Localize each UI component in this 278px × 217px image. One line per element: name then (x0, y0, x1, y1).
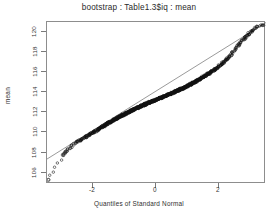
y-tick-label: 118 (0, 46, 40, 56)
y-tick-label: 108 (0, 147, 40, 157)
plot-panel (46, 21, 265, 183)
x-axis-title: Quantiles of Standard Normal (0, 200, 278, 207)
y-tick-label: 106 (0, 167, 40, 177)
x-tick-label: -2 (80, 186, 104, 193)
y-tick-label: 110 (0, 126, 40, 136)
x-tick-label: 2 (206, 186, 230, 193)
data-points (47, 24, 265, 182)
y-tick-label: 112 (0, 106, 40, 116)
y-tick-label: 116 (0, 66, 40, 76)
x-tick-label: 0 (143, 186, 167, 193)
y-tick-label: 114 (0, 86, 40, 96)
plot-title: bootstrap : Table1.3$iq : mean (0, 3, 278, 12)
qq-scatter-canvas (47, 22, 266, 184)
y-tick-label: 120 (0, 26, 40, 36)
qq-plot-figure: bootstrap : Table1.3$iq : mean mean Quan… (0, 0, 278, 217)
